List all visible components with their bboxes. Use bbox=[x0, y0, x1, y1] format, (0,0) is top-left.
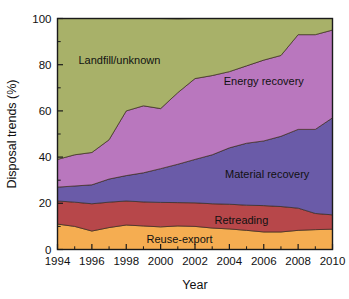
series-label-landfill-unknown: Landfill/unknown bbox=[78, 54, 160, 66]
x-tick-label: 2000 bbox=[148, 255, 174, 267]
x-axis-tick-labels: 199419961998200020022004200620082010 bbox=[45, 255, 346, 267]
x-tick-label: 1998 bbox=[113, 255, 139, 267]
y-tick-label: 100 bbox=[32, 13, 51, 25]
series-label-retreading: Retreading bbox=[214, 214, 268, 226]
x-tick-label: 1994 bbox=[45, 255, 71, 267]
y-axis-title: Disposal trends (%) bbox=[5, 79, 19, 188]
stacked-area-chart: 020406080100 199419961998200020022004200… bbox=[0, 0, 349, 299]
y-tick-label: 80 bbox=[39, 59, 52, 71]
series-label-reuse-export: Reuse-export bbox=[146, 233, 212, 245]
y-tick-label: 40 bbox=[39, 151, 52, 163]
chart-figure: 020406080100 199419961998200020022004200… bbox=[0, 0, 349, 299]
series-label-material-recovery: Material recovery bbox=[225, 168, 310, 180]
series-label-energy-recovery: Energy recovery bbox=[224, 75, 305, 87]
y-axis-tick-labels: 020406080100 bbox=[32, 13, 51, 256]
x-tick-label: 2008 bbox=[285, 255, 311, 267]
x-tick-label: 2002 bbox=[182, 255, 208, 267]
x-tick-label: 2010 bbox=[320, 255, 346, 267]
x-axis-title: Year bbox=[182, 278, 207, 292]
y-tick-label: 60 bbox=[39, 105, 52, 117]
x-tick-label: 2006 bbox=[251, 255, 277, 267]
x-tick-label: 1996 bbox=[79, 255, 105, 267]
x-tick-label: 2004 bbox=[217, 255, 243, 267]
y-tick-label: 20 bbox=[39, 197, 52, 209]
